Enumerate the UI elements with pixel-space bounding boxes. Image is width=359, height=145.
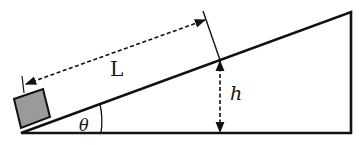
incline-triangle [21,12,351,133]
length-label: L [110,57,123,81]
height-label: h [230,82,242,104]
incline-diagram: L h θ [0,0,359,145]
length-tick-right [203,11,220,60]
angle-arc [100,104,102,133]
angle-label: θ [79,116,89,135]
length-tick-left [22,76,24,93]
diagram-canvas: L h θ [0,0,359,145]
block [14,89,50,128]
